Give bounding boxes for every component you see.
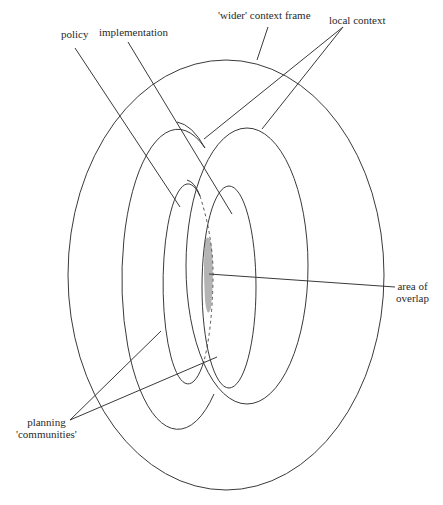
implementation-leader-line bbox=[128, 42, 232, 214]
area-of-overlap-label-line1: area of bbox=[396, 280, 429, 292]
policy-leader-line bbox=[75, 48, 180, 207]
policy-label: policy bbox=[61, 28, 89, 40]
planning-community-left-ellipse bbox=[122, 129, 214, 429]
planning-communities-label-line2: 'communities' bbox=[16, 428, 77, 440]
planning-community-left-ellipse-top-right bbox=[177, 122, 205, 148]
wider-context-frame-label: 'wider' context frame bbox=[218, 9, 311, 21]
local-context-leader-line-1 bbox=[204, 27, 343, 139]
area-of-overlap-leader-line bbox=[209, 274, 395, 287]
planning-communities-label: planning 'communities' bbox=[16, 416, 77, 440]
planning-leader-line-1 bbox=[70, 331, 161, 420]
planning-communities-label-line1: planning bbox=[16, 416, 77, 428]
policy-ellipse bbox=[163, 184, 204, 384]
area-of-overlap-label-line2: overlap bbox=[396, 292, 429, 304]
implementation-label: implementation bbox=[99, 26, 168, 38]
area-of-overlap-label: area of overlap bbox=[396, 280, 429, 304]
local-context-label: local context bbox=[329, 14, 386, 26]
wider-context-leader-line bbox=[257, 27, 268, 60]
